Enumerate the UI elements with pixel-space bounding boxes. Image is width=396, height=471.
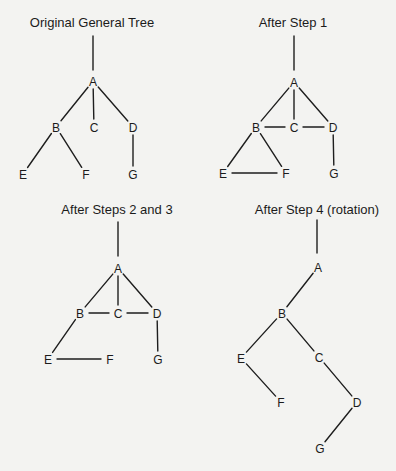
edge-d-g <box>333 135 334 165</box>
node-f: F <box>106 353 113 367</box>
node-a: A <box>114 262 122 276</box>
tree-edges <box>28 36 133 168</box>
tree-edges <box>228 36 334 173</box>
node-e: E <box>44 353 52 367</box>
panel-after-steps-2-and-3: After Steps 2 and 3 ABCDEFG <box>44 202 173 367</box>
node-e: E <box>19 168 27 182</box>
edge-a-d <box>98 87 128 121</box>
node-d: D <box>129 121 138 135</box>
edge-b-e <box>246 319 276 352</box>
node-b: B <box>278 307 286 321</box>
node-d: D <box>153 307 162 321</box>
node-e: E <box>237 352 245 366</box>
edge-b-e <box>53 320 76 353</box>
node-d: D <box>329 121 338 135</box>
edge-a-b <box>261 88 289 121</box>
node-g: G <box>153 353 162 367</box>
edge-b-e <box>228 134 252 167</box>
edge-a-d <box>299 88 328 121</box>
tree-edges <box>246 220 352 442</box>
tree-nodes: ABCDEFG <box>44 262 163 367</box>
edge-a-b <box>287 273 313 306</box>
node-c: C <box>315 351 324 365</box>
edge-b-f <box>260 134 281 167</box>
node-a: A <box>314 261 322 275</box>
node-c: C <box>90 121 99 135</box>
node-a: A <box>290 76 298 90</box>
edge-c-d <box>324 363 352 396</box>
panel-title: After Step 1 <box>259 15 328 30</box>
node-g: G <box>329 167 338 181</box>
edge-e-f <box>246 364 275 396</box>
panel-title: After Step 4 (rotation) <box>255 202 379 217</box>
edge-d-g <box>325 408 352 442</box>
panel-after-step-1: After Step 1 ABCDEFG <box>219 15 339 181</box>
node-g: G <box>128 168 137 182</box>
panel-after-step-4-rotation: After Step 4 (rotation) ABCDEFG <box>237 202 379 456</box>
node-f: F <box>277 396 284 410</box>
tree-nodes: ABCDEFG <box>219 76 339 181</box>
node-b: B <box>52 121 60 135</box>
edge-a-b <box>61 87 88 121</box>
node-f: F <box>282 167 289 181</box>
edge-d-g <box>157 321 158 351</box>
node-e: E <box>219 167 227 181</box>
edge-a-c <box>93 89 94 119</box>
edge-b-c <box>287 319 314 351</box>
edge-b-e <box>28 134 52 168</box>
panel-title: Original General Tree <box>30 15 154 30</box>
node-d: D <box>353 396 362 410</box>
edge-b-f <box>60 134 81 168</box>
node-b: B <box>76 307 84 321</box>
tree-edges <box>53 222 158 359</box>
node-c: C <box>114 307 123 321</box>
node-b: B <box>252 121 260 135</box>
node-f: F <box>82 168 89 182</box>
node-a: A <box>89 75 97 89</box>
tree-transformation-diagram: Original General Tree ABCDEFG After Step… <box>0 0 396 471</box>
tree-nodes: ABCDEFG <box>19 75 138 182</box>
panel-original-tree: Original General Tree ABCDEFG <box>19 15 154 182</box>
edge-a-b <box>85 274 113 307</box>
node-g: G <box>315 442 324 456</box>
diagram-canvas: Original General Tree ABCDEFG After Step… <box>0 0 396 471</box>
node-c: C <box>290 121 299 135</box>
edge-a-d <box>123 274 152 307</box>
panel-title: After Steps 2 and 3 <box>61 202 172 217</box>
